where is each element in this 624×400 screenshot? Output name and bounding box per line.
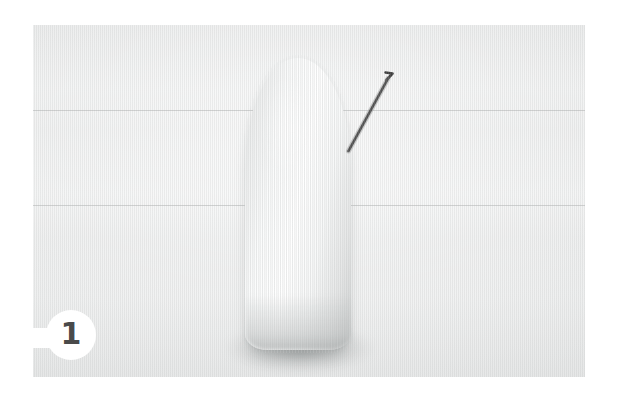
screenshot-root: 1	[0, 0, 624, 400]
wool-roving-cone	[245, 58, 351, 350]
step-number-badge: 1	[46, 310, 96, 360]
instructional-step-photo: 1	[33, 25, 585, 377]
step-number-label: 1	[61, 319, 82, 349]
cone-base-shading	[245, 294, 351, 350]
cone-highlight	[261, 68, 323, 188]
